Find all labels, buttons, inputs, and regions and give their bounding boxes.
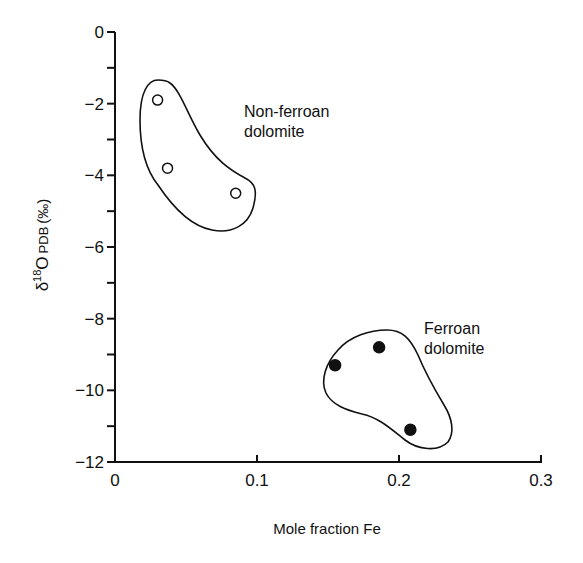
y-axis: 0−2−4−6−8−10−12 [75, 23, 115, 472]
y-tick-label: 0 [95, 23, 104, 42]
non-ferroan-point [153, 95, 163, 105]
x-axis: 00.10.20.3 [110, 455, 553, 490]
scatter-chart: 0−2−4−6−8−10−12 00.10.20.3 Non-ferroan d… [0, 0, 583, 563]
y-tick-label: −4 [85, 166, 104, 185]
y-axis-title: δ18OPDB(‰) [31, 199, 52, 292]
annotation-non-ferroan: Non-ferroan dolomite [244, 103, 334, 140]
x-tick-label: 0 [110, 471, 119, 490]
data-points [153, 95, 416, 435]
non-ferroan-point [163, 163, 173, 173]
ferroan-point [374, 342, 385, 353]
x-tick-label: 0.1 [245, 471, 269, 490]
ferroan-point [330, 360, 341, 371]
y-tick-label: −6 [85, 238, 104, 257]
annotation-ferroan: Ferroan dolomite [424, 320, 485, 357]
x-ticks: 00.10.20.3 [110, 455, 553, 490]
y-tick-label: −10 [75, 381, 104, 400]
x-tick-label: 0.3 [529, 471, 553, 490]
y-tick-label: −12 [75, 453, 104, 472]
y-ticks: 0−2−4−6−8−10−12 [75, 23, 115, 472]
y-tick-label: −2 [85, 95, 104, 114]
y-tick-label: −8 [85, 310, 104, 329]
x-tick-label: 0.2 [387, 471, 411, 490]
ferroan-point [405, 424, 416, 435]
x-axis-title: Mole fraction Fe [273, 520, 381, 537]
non-ferroan-point [231, 188, 241, 198]
